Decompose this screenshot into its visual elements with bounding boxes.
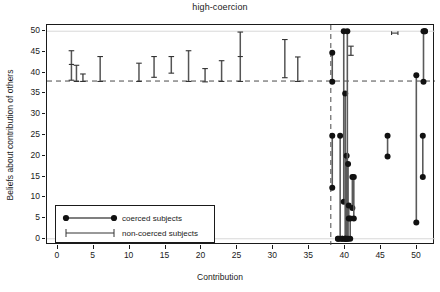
x-tick-label: 20 [190,250,210,260]
legend-label-coerced: coerced subjects [122,214,182,223]
coerced-point [329,50,335,56]
chart-figure: high-coercion Beliefs about contribution… [0,0,440,292]
y-tick-mark [42,176,45,177]
chart-title: high-coercion [0,2,440,12]
coerced-point [413,72,419,78]
y-tick-mark [42,196,45,197]
y-axis-label: Beliefs about contribution of others [2,0,16,292]
y-tick-label: 50 [18,25,40,35]
coerced-point [347,236,353,242]
x-tick-label: 30 [262,250,282,260]
coerced-point [329,79,335,85]
coerced-point [345,161,351,167]
y-tick-label: 5 [18,212,40,222]
coerced-point [385,133,391,139]
x-tick-label: 25 [226,250,246,260]
chart-legend: coerced subjects non-coerced subjects [55,205,215,243]
y-tick-mark [42,72,45,73]
coerced-point [421,79,427,85]
y-tick-label: 15 [18,171,40,181]
coerced-point [385,154,391,160]
x-tick-mark [416,245,417,249]
x-tick-mark [308,245,309,249]
y-tick-mark [42,92,45,93]
x-tick-mark [57,245,58,249]
legend-label-non-coerced: non-coerced subjects [122,229,198,238]
y-tick-label: 40 [18,67,40,77]
coerced-point [344,28,350,34]
x-axis-label: Contribution [0,272,440,282]
x-tick-mark [93,245,94,249]
y-axis-label-text: Beliefs about contribution of others [5,65,15,205]
legend-markers [56,206,216,244]
coerced-point [329,133,335,139]
y-tick-mark [42,51,45,52]
x-tick-mark [272,245,273,249]
y-tick-mark [42,113,45,114]
coerced-point [420,133,426,139]
x-tick-label: 10 [119,250,139,260]
y-tick-mark [42,30,45,31]
coerced-point [351,215,357,221]
y-tick-label: 35 [18,87,40,97]
x-tick-label: 35 [298,250,318,260]
x-tick-label: 50 [406,250,426,260]
y-tick-mark [42,155,45,156]
y-tick-mark [42,134,45,135]
coerced-point [413,220,419,226]
x-tick-label: 5 [83,250,103,260]
coerced-point [420,174,426,180]
x-tick-label: 45 [370,250,390,260]
x-tick-mark [129,245,130,249]
x-tick-mark [344,245,345,249]
y-tick-label: 20 [18,150,40,160]
x-tick-mark [380,245,381,249]
x-tick-mark [200,245,201,249]
y-tick-mark [42,238,45,239]
x-tick-label: 15 [155,250,175,260]
y-tick-label: 10 [18,191,40,201]
y-tick-mark [42,217,45,218]
x-tick-label: 0 [47,250,67,260]
coerced-point [329,185,335,191]
x-tick-mark [236,245,237,249]
coerced-point [337,133,343,139]
x-tick-label: 40 [334,250,354,260]
coerced-point [351,174,357,180]
y-tick-label: 0 [18,233,40,243]
x-tick-mark [165,245,166,249]
y-tick-label: 25 [18,129,40,139]
coerced-point [422,28,428,34]
y-tick-label: 30 [18,108,40,118]
y-tick-label: 45 [18,46,40,56]
